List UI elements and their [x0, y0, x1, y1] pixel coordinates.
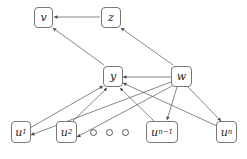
ellipsis-dot — [122, 129, 129, 136]
edge-y-v — [53, 28, 104, 65]
node-u2: u2 — [56, 121, 77, 143]
node-w: w — [171, 66, 192, 87]
node-y: y — [103, 66, 123, 87]
node-u1-label: u — [15, 126, 22, 139]
node-z: z — [101, 7, 121, 28]
node-un-1: un−1 — [146, 121, 178, 143]
node-u1: u1 — [11, 121, 31, 143]
node-un-1-label: u — [151, 126, 158, 139]
ellipsis-dot — [106, 129, 113, 136]
node-u2-label: u — [61, 126, 68, 139]
node-y-label: y — [110, 70, 116, 83]
node-u2-sub: 2 — [68, 128, 72, 136]
node-un: un — [216, 121, 237, 143]
edge-w-un — [188, 87, 221, 121]
node-un-sub: n — [228, 128, 233, 136]
ellipsis-dot — [90, 129, 97, 136]
node-z-label: z — [108, 11, 114, 24]
node-un-1-sub: n−1 — [158, 128, 173, 136]
node-un-label: u — [221, 126, 228, 139]
node-w-label: w — [177, 70, 186, 83]
edge-u2-y — [73, 88, 107, 121]
edge-w-z — [121, 28, 173, 65]
node-u1-sub: 1 — [22, 128, 26, 136]
node-v: v — [34, 7, 53, 28]
node-v-label: v — [40, 11, 46, 24]
